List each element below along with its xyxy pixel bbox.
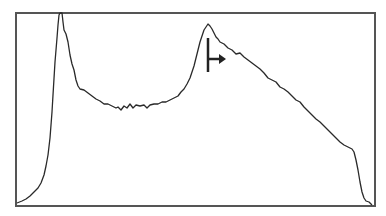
plot-frame bbox=[16, 13, 375, 206]
arrow-head-icon bbox=[219, 54, 226, 64]
histogram-chart bbox=[0, 0, 386, 216]
histogram-curve bbox=[17, 13, 372, 205]
